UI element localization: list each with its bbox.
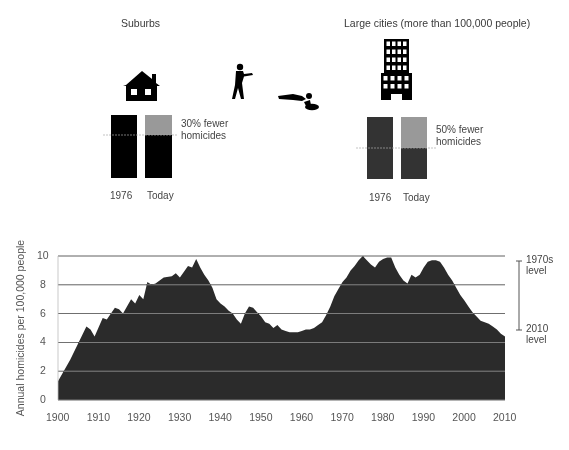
cities-annotation-line2: homicides bbox=[436, 136, 481, 148]
cities-bar-today-reduction bbox=[401, 117, 427, 148]
y-tick-label: 4 bbox=[40, 335, 46, 347]
suburbs-annotation-line2: homicides bbox=[181, 130, 226, 142]
x-tick-label: 1960 bbox=[290, 411, 313, 423]
y-axis-label: Annual homicides per 100,000 people bbox=[14, 238, 26, 418]
x-tick-label: 1910 bbox=[87, 411, 110, 423]
annotation-1970s-line2: level bbox=[526, 265, 547, 277]
infographic-graphics bbox=[0, 0, 569, 450]
x-tick-label: 1970 bbox=[330, 411, 353, 423]
x-tick-label: 1930 bbox=[168, 411, 191, 423]
x-tick-label: 1990 bbox=[412, 411, 435, 423]
x-tick-label: 1980 bbox=[371, 411, 394, 423]
suburbs-bar-today bbox=[145, 135, 172, 178]
office-building-icon bbox=[381, 39, 412, 101]
victim-lying-icon bbox=[278, 93, 319, 110]
cities-bar-today bbox=[401, 148, 427, 179]
cities-annotation-line1: 50% fewer bbox=[436, 124, 483, 136]
y-tick-label: 8 bbox=[40, 278, 46, 290]
y-tick-label: 10 bbox=[37, 249, 49, 261]
level-range-bracket bbox=[516, 261, 522, 330]
x-tick-label: 1940 bbox=[209, 411, 232, 423]
cities-bar-chart bbox=[356, 117, 437, 179]
y-tick-label: 0 bbox=[40, 393, 46, 405]
cities-label-1976: 1976 bbox=[369, 192, 391, 204]
annotation-2010-line2: level bbox=[526, 334, 547, 346]
suburbs-annotation-line1: 30% fewer bbox=[181, 118, 228, 130]
suburbs-bar-chart bbox=[103, 115, 178, 178]
suburbs-bar-today-reduction bbox=[145, 115, 172, 135]
homicide-area-chart bbox=[58, 256, 505, 400]
gunman-icon bbox=[232, 64, 253, 99]
x-tick-label: 1900 bbox=[46, 411, 69, 423]
cities-label-today: Today bbox=[403, 192, 430, 204]
x-tick-label: 1920 bbox=[127, 411, 150, 423]
x-tick-label: 1950 bbox=[249, 411, 272, 423]
x-tick-label: 2000 bbox=[452, 411, 475, 423]
suburbs-label-today: Today bbox=[147, 190, 174, 202]
y-tick-label: 6 bbox=[40, 307, 46, 319]
x-tick-label: 2010 bbox=[493, 411, 516, 423]
y-tick-label: 2 bbox=[40, 364, 46, 376]
suburbs-bar-1976 bbox=[111, 115, 137, 178]
suburbs-label-1976: 1976 bbox=[110, 190, 132, 202]
house-icon bbox=[123, 71, 160, 101]
